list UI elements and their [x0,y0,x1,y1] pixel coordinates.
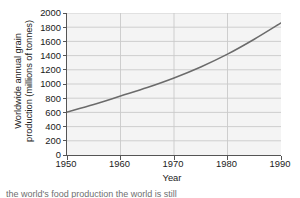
plot-svg [67,13,281,155]
y-axis-tickmark [63,126,67,127]
x-axis-tick-label: 1960 [100,158,140,169]
y-axis-tick-label: 1600 [33,37,61,46]
y-axis-tickmark [63,55,67,56]
y-axis-tickmark [63,41,67,42]
y-axis-tickmark [63,112,67,113]
y-axis-tick-label: 1400 [33,51,61,60]
y-axis-tick-labels: 0200400600800100012001400160018002000 [33,0,61,160]
y-axis-tick-label: 200 [33,136,61,145]
figure-caption: the world's food production the world is… [6,189,296,198]
x-axis-tick-label: 1970 [153,158,193,169]
y-axis-tick-label: 800 [33,94,61,103]
x-axis-title: Year [0,172,300,183]
x-axis-tick-label: 1990 [260,158,300,169]
y-axis-tick-label: 1800 [33,23,61,32]
y-axis-tickmark [63,84,67,85]
plot-area [66,13,281,156]
x-axis-tick-label: 1950 [46,158,86,169]
y-axis-tick-label: 2000 [33,8,61,17]
y-axis-tick-label: 400 [33,122,61,131]
y-axis-tickmark [63,140,67,141]
x-axis-title-text: Year [163,172,182,183]
grain-production-chart-figure: Worldwide annual grain production (milli… [0,0,300,198]
x-axis-tick-labels: 19501960197019801990 [0,158,300,172]
y-axis-tick-label: 1000 [33,79,61,88]
figure-caption-text: the world's food production the world is… [6,189,177,198]
y-axis-title-line-1: Worldwide annual grain [12,33,24,129]
y-axis-tickmark [63,13,67,14]
y-axis-tick-label: 1200 [33,65,61,74]
x-axis-tick-label: 1980 [207,158,247,169]
y-axis-tickmark [63,98,67,99]
y-axis-tickmark [63,27,67,28]
y-axis-tickmark [63,69,67,70]
y-axis-tick-label: 600 [33,108,61,117]
